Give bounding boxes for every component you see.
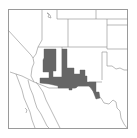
range-map: [0, 0, 137, 138]
map-canvas: [0, 0, 137, 138]
